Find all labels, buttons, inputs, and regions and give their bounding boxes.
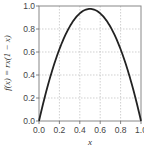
y-tick-label: 0.0 (23, 116, 35, 126)
x-axis-ticks: 0.00.20.40.60.81.0 (33, 121, 144, 135)
function-curve (39, 9, 141, 121)
x-axis-label: x (87, 137, 92, 146)
x-tick-label: 0.8 (115, 125, 127, 135)
x-tick-label: 0.4 (74, 125, 86, 135)
y-axis-label: f(x) = rx(1 − x) (2, 35, 12, 91)
x-tick-label: 1.0 (135, 125, 144, 135)
x-tick-label: 0.2 (53, 125, 65, 135)
y-tick-label: 0.4 (23, 70, 35, 80)
y-axis-ticks: 0.00.20.40.60.81.0 (23, 1, 39, 126)
y-tick-label: 0.6 (23, 47, 35, 57)
y-tick-label: 0.2 (23, 93, 35, 103)
y-tick-label: 1.0 (23, 1, 35, 11)
x-tick-label: 0.6 (94, 125, 106, 135)
y-tick-label: 0.8 (23, 24, 35, 34)
x-tick-label: 0.0 (33, 125, 45, 135)
logistic-map-chart: 0.00.20.40.60.81.0 0.00.20.40.60.81.0 x … (0, 0, 144, 146)
